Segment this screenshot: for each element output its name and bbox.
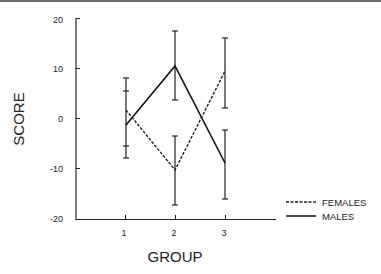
y-axis: 20 10 0 -10 -20 <box>50 15 80 224</box>
y-axis-title: SCORE <box>10 92 27 145</box>
chart: 20 10 0 -10 -20 1 2 3 GROUP SCORE <box>0 0 381 274</box>
y-tick-label: -10 <box>50 164 63 174</box>
error-bars <box>123 31 228 205</box>
y-tick-label: 0 <box>58 114 63 124</box>
x-tick-label: 2 <box>171 228 176 238</box>
y-tick-label: -20 <box>50 214 63 224</box>
legend-males-label: MALES <box>322 211 354 222</box>
legend-females-label: FEMALES <box>322 197 366 208</box>
y-tick-label: 10 <box>53 64 63 74</box>
y-tick-label: 20 <box>53 15 63 25</box>
x-axis: 1 2 3 <box>76 215 276 238</box>
x-tick-label: 1 <box>121 228 126 238</box>
legend: FEMALES MALES <box>286 197 366 222</box>
x-tick-label: 3 <box>221 228 226 238</box>
x-axis-title: GROUP <box>147 248 202 265</box>
